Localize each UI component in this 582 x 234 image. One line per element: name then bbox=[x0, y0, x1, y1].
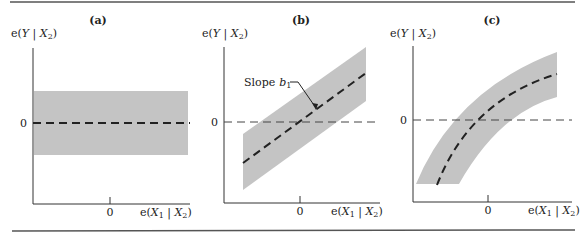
panel-a-y-zero-label: 0 bbox=[20, 117, 27, 130]
panel-b-slope-annotation: Slopeb1 bbox=[244, 76, 291, 90]
panel-c: (c) e(Y | X2) 0 0 e(X1 | X2) bbox=[390, 14, 580, 218]
panel-a-x-axis-label: e(X1 | X2) bbox=[140, 206, 192, 220]
panel-c-title: (c) bbox=[483, 14, 500, 27]
panel-b-title: (b) bbox=[292, 14, 310, 27]
panel-a-y-axis-label: e(Y | X2) bbox=[11, 27, 57, 41]
panel-c-x-axis-label: e(X1 | X2) bbox=[528, 204, 580, 218]
bottom-rule bbox=[12, 230, 575, 231]
panel-c-band bbox=[416, 52, 557, 184]
panel-c-y-axis-label: e(Y | X2) bbox=[390, 27, 436, 41]
panel-b-y-zero-label: 0 bbox=[211, 116, 218, 129]
panel-a-title: (a) bbox=[89, 14, 107, 27]
panel-b-y-axis-label: e(Y | X2) bbox=[202, 27, 248, 41]
panel-a-x-zero-label: 0 bbox=[107, 206, 114, 219]
panel-c-x-zero-label: 0 bbox=[485, 204, 492, 217]
panel-b-x-axis-label: e(X1 | X2) bbox=[331, 205, 383, 219]
panel-b-band bbox=[243, 47, 366, 190]
panel-c-y-zero-label: 0 bbox=[400, 114, 407, 127]
panel-b: (b) e(Y | X2) 0 0 e(X1 | X2) Slopeb1 bbox=[202, 14, 383, 219]
figure-canvas: (a) e(Y | X2) 0 0 e(X1 | X2) (b) e(Y | X… bbox=[0, 0, 582, 234]
panel-b-x-zero-label: 0 bbox=[297, 205, 304, 218]
panel-a: (a) e(Y | X2) 0 0 e(X1 | X2) bbox=[11, 14, 192, 220]
